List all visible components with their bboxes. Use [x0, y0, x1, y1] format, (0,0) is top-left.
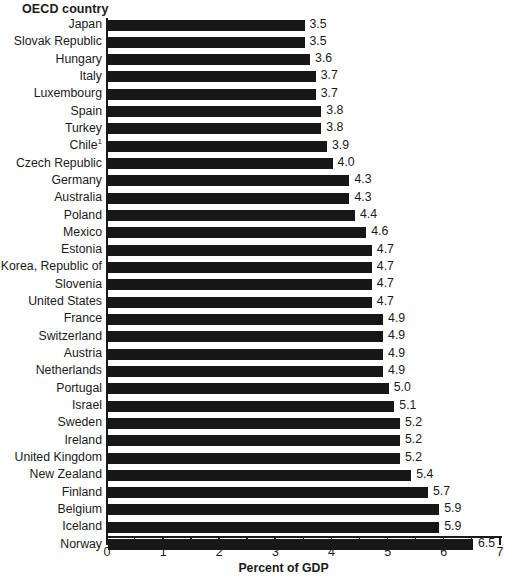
bar-row: Mexico4.6 — [0, 226, 519, 243]
footnote-marker: 1 — [98, 137, 102, 146]
bar-category-label: New Zealand — [0, 468, 102, 481]
bar-category-label: Hungary — [0, 53, 102, 66]
x-tick-label: 1 — [151, 545, 175, 559]
x-tick-minor — [190, 538, 191, 542]
bar-category-label: Poland — [0, 209, 102, 222]
bar — [108, 106, 321, 117]
bar-category-label: Italy — [0, 70, 102, 83]
x-tick-major — [106, 538, 108, 545]
bar — [108, 504, 439, 515]
bar — [108, 227, 366, 238]
x-tick-label: 7 — [488, 545, 512, 559]
bar-value-label: 4.3 — [354, 191, 371, 204]
bar-value-label: 5.4 — [416, 468, 433, 481]
x-tick-major — [499, 538, 501, 545]
bar-row: Iceland5.9 — [0, 520, 519, 537]
bar-category-label: Israel — [0, 399, 102, 412]
bar-category-label: Slovenia — [0, 278, 102, 291]
bar — [108, 314, 383, 325]
bar-category-label: Mexico — [0, 226, 102, 239]
bar — [108, 331, 383, 342]
bar-value-label: 5.2 — [405, 416, 422, 429]
bar-value-label: 3.7 — [321, 87, 338, 100]
bar-row: Poland4.4 — [0, 209, 519, 226]
bar-row: Australia4.3 — [0, 191, 519, 208]
x-tick-major — [387, 538, 389, 545]
bar-category-label: Czech Republic — [0, 157, 102, 170]
bar-row: Austria4.9 — [0, 347, 519, 364]
bar-row: Hungary3.6 — [0, 53, 519, 70]
bar-value-label: 4.9 — [388, 329, 405, 342]
bar-value-label: 5.2 — [405, 451, 422, 464]
x-tick-minor — [359, 538, 360, 542]
bar — [108, 470, 411, 481]
bar-row: New Zealand5.4 — [0, 468, 519, 485]
bar — [108, 418, 400, 429]
bar-value-label: 5.2 — [405, 433, 422, 446]
bar-category-label: Austria — [0, 347, 102, 360]
bar — [108, 54, 310, 65]
bar — [108, 37, 305, 48]
bar-value-label: 4.7 — [377, 295, 394, 308]
bar — [108, 141, 327, 152]
bar-value-label: 5.7 — [433, 485, 450, 498]
bar-row: Slovenia4.7 — [0, 278, 519, 295]
bar — [108, 245, 372, 256]
bar-value-label: 3.5 — [310, 18, 327, 31]
bar-category-label: United Kingdom — [0, 451, 102, 464]
bar-category-label: Australia — [0, 191, 102, 204]
bar-row: United States4.7 — [0, 295, 519, 312]
bar-value-label: 5.9 — [444, 502, 461, 515]
bar-category-label: Luxembourg — [0, 87, 102, 100]
bar — [108, 89, 316, 100]
bar-value-label: 5.1 — [399, 399, 416, 412]
bar-row: Switzerland4.9 — [0, 330, 519, 347]
bar-value-label: 4.0 — [338, 156, 355, 169]
bar-row: Czech Republic4.0 — [0, 157, 519, 174]
bar — [108, 262, 372, 273]
x-tick-label: 2 — [207, 545, 231, 559]
x-tick-label: 5 — [376, 545, 400, 559]
bar — [108, 297, 372, 308]
bar-row: Estonia4.7 — [0, 243, 519, 260]
bar — [108, 453, 400, 464]
bar-value-label: 4.6 — [371, 225, 388, 238]
x-tick-major — [331, 538, 333, 545]
bar-row: Japan3.5 — [0, 18, 519, 35]
bar-category-label: Japan — [0, 18, 102, 31]
bar — [108, 383, 389, 394]
bar-row: Turkey3.8 — [0, 122, 519, 139]
bar-value-label: 3.7 — [321, 69, 338, 82]
bar-value-label: 4.9 — [388, 347, 405, 360]
bar — [108, 175, 349, 186]
bar-row: Spain3.8 — [0, 105, 519, 122]
bar-category-label: Iceland — [0, 520, 102, 533]
bar-row: Belgium5.9 — [0, 503, 519, 520]
bar — [108, 20, 305, 31]
x-tick-label: 0 — [95, 545, 119, 559]
x-axis-title: Percent of GDP — [0, 561, 519, 575]
bar-category-label: Germany — [0, 174, 102, 187]
bar-category-label: Netherlands — [0, 364, 102, 377]
bar-category-label: Norway — [0, 538, 102, 551]
bar-value-label: 3.8 — [326, 104, 343, 117]
bar-category-label: United States — [0, 295, 102, 308]
x-tick-minor — [134, 538, 135, 542]
bar-row: United Kingdom5.2 — [0, 451, 519, 468]
bar-value-label: 3.6 — [315, 52, 332, 65]
bar — [108, 522, 439, 533]
bar-row: France4.9 — [0, 312, 519, 329]
bar-row: Ireland5.2 — [0, 434, 519, 451]
x-tick-minor — [246, 538, 247, 542]
bar-value-label: 3.9 — [332, 139, 349, 152]
bar-value-label: 4.7 — [377, 243, 394, 256]
bar-value-label: 4.7 — [377, 260, 394, 273]
bar — [108, 366, 383, 377]
bar-row: Luxembourg3.7 — [0, 87, 519, 104]
bar-row: Israel5.1 — [0, 399, 519, 416]
bar-category-label: Ireland — [0, 434, 102, 447]
bar — [108, 71, 316, 82]
x-tick-label: 6 — [432, 545, 456, 559]
bar-category-label: Switzerland — [0, 330, 102, 343]
bar — [108, 435, 400, 446]
